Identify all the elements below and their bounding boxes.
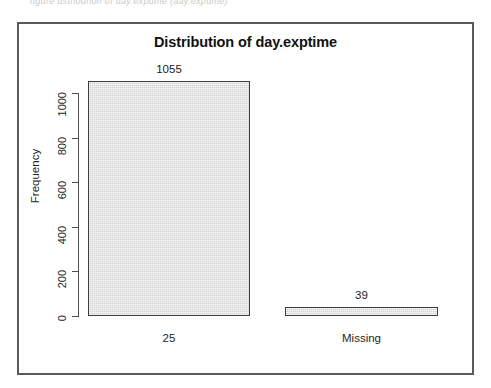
y-tick-label: 1000	[56, 92, 68, 132]
y-tick-label: 0	[56, 315, 68, 355]
y-tick-mark	[72, 138, 79, 139]
y-tick-label: 200	[56, 270, 68, 310]
y-tick-mark	[72, 93, 79, 94]
y-tick-mark	[72, 227, 79, 228]
bar-value-label: 1055	[88, 63, 250, 75]
x-tick-label: Missing	[285, 332, 438, 344]
y-tick-label: 600	[56, 181, 68, 221]
y-axis-line	[78, 93, 79, 317]
y-tick-label: 400	[56, 226, 68, 266]
y-tick-label: 800	[56, 137, 68, 177]
bar[interactable]	[88, 81, 250, 316]
y-tick-mark	[72, 271, 79, 272]
bar[interactable]	[285, 307, 438, 316]
y-tick-mark	[72, 182, 79, 183]
chart-title: Distribution of day.exptime	[17, 34, 474, 50]
y-tick-mark	[72, 316, 79, 317]
y-axis-title: Frequency	[29, 131, 41, 221]
bar-value-label: 39	[285, 289, 438, 301]
bar-chart: Distribution of day.exptime 020040060080…	[0, 0, 491, 388]
x-tick-label: 25	[88, 332, 250, 344]
